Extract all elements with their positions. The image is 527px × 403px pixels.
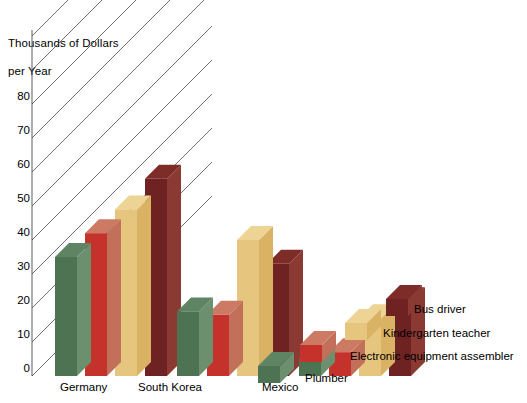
- legend-label-plumber: Plumber: [305, 372, 348, 384]
- x-label-mexico: Mexico: [262, 381, 298, 393]
- x-label-germany: Germany: [60, 381, 107, 393]
- bar-plumber-south-korea: [177, 297, 213, 376]
- legend-label-electronic-equipment-assembler: Electronic equipment assembler: [350, 350, 514, 362]
- bar-plumber-germany: [55, 243, 91, 376]
- x-label-south-korea: South Korea: [138, 381, 202, 393]
- bar-chart: Thousands of Dollars per Year 80 70 60 5…: [0, 0, 527, 403]
- plot-area: [0, 0, 527, 403]
- legend-label-kindergarten-teacher: Kindergarten teacher: [383, 327, 490, 339]
- legend-label-bus-driver: Bus driver: [414, 303, 466, 315]
